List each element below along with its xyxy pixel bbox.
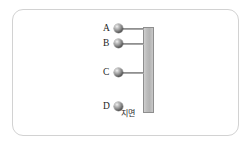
sphere-a xyxy=(114,24,123,33)
sphere-b xyxy=(114,39,123,48)
point-label-a: A xyxy=(103,24,110,34)
rod-b xyxy=(122,43,144,45)
point-label-b: B xyxy=(103,39,109,49)
ground-caption-label: 지면 xyxy=(121,110,135,118)
point-label-d: D xyxy=(103,102,110,112)
point-label-c: C xyxy=(103,68,109,78)
vertical-wall xyxy=(143,27,154,113)
rod-a xyxy=(122,28,144,30)
rod-c xyxy=(122,72,144,74)
physics-diagram: ABCD 지면 xyxy=(0,0,251,146)
sphere-c xyxy=(114,68,123,77)
